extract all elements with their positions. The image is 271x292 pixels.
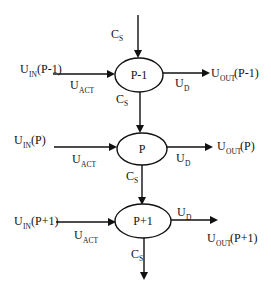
svg-text:(P): (P)	[31, 133, 46, 147]
svg-text:C: C	[126, 169, 134, 183]
svg-text:C: C	[111, 27, 119, 41]
row2-input-label: U IN (P)	[14, 133, 46, 150]
cs-arrow-p-minus-1-to-p	[136, 92, 144, 133]
svg-text:U: U	[176, 151, 185, 165]
svg-text:D: D	[186, 213, 192, 222]
row1-ud-label: U D	[175, 76, 190, 93]
cs-arrow-p-to-p-plus-1	[138, 165, 146, 205]
node-p-plus-1: P+1	[115, 204, 171, 238]
row1-output-arrow	[163, 69, 210, 77]
row3-uact-label: U ACT	[74, 228, 98, 245]
svg-text:U: U	[74, 228, 83, 242]
row1-input-arrow	[53, 70, 115, 78]
svg-text:U: U	[72, 152, 81, 166]
row2-input-arrow	[54, 143, 117, 151]
svg-text:U: U	[70, 78, 79, 92]
svg-text:ACT: ACT	[79, 86, 94, 95]
svg-text:(P+1): (P+1)	[31, 214, 58, 228]
svg-text:C: C	[131, 247, 139, 261]
svg-text:(P-1): (P-1)	[234, 66, 259, 80]
row3-output-label: U OUT (P+1)	[207, 231, 257, 248]
node-p-minus-1: P-1	[115, 58, 163, 92]
svg-text:ACT: ACT	[81, 160, 96, 169]
cascade-diagram: C S P-1 U IN (P-1) U ACT U D U OUT (P-1)…	[0, 0, 271, 292]
svg-text:U: U	[14, 133, 23, 147]
svg-text:ACT: ACT	[83, 236, 98, 245]
svg-text:U: U	[211, 66, 220, 80]
row2-output-arrow	[167, 143, 213, 151]
svg-text:U: U	[217, 139, 226, 153]
svg-text:U: U	[175, 76, 184, 90]
svg-text:U: U	[14, 214, 23, 228]
row3-input-arrow	[56, 218, 116, 226]
svg-text:D: D	[184, 84, 190, 93]
svg-text:S: S	[124, 99, 128, 108]
top-cs-label: C S	[111, 27, 123, 43]
svg-text:D: D	[185, 159, 191, 168]
cs-label-2: C S	[126, 169, 138, 185]
svg-text:C: C	[116, 92, 124, 106]
row2-uact-label: U ACT	[72, 152, 96, 169]
node-p-minus-1-label: P-1	[131, 68, 148, 82]
node-p-plus-1-label: P+1	[133, 214, 152, 228]
row3-input-label: U IN (P+1)	[14, 214, 58, 231]
row1-input-label: U IN (P-1)	[20, 62, 62, 79]
node-p-label: P	[139, 142, 146, 156]
svg-text:U: U	[207, 231, 216, 245]
bottom-cs-label: C S	[131, 247, 143, 263]
svg-text:(P): (P)	[240, 139, 255, 153]
svg-text:S: S	[134, 176, 138, 185]
svg-text:S: S	[119, 34, 123, 43]
top-cs-arrow	[134, 15, 142, 58]
svg-text:U: U	[20, 62, 29, 76]
node-p: P	[117, 133, 167, 165]
svg-text:(P+1): (P+1)	[230, 231, 257, 245]
svg-text:U: U	[177, 205, 186, 219]
row2-ud-label: U D	[176, 151, 191, 168]
row1-uact-label: U ACT	[70, 78, 94, 95]
cs-label-1: C S	[116, 92, 128, 108]
row2-output-label: U OUT (P)	[217, 139, 255, 156]
svg-text:S: S	[139, 254, 143, 263]
row1-output-label: U OUT (P-1)	[211, 66, 259, 83]
